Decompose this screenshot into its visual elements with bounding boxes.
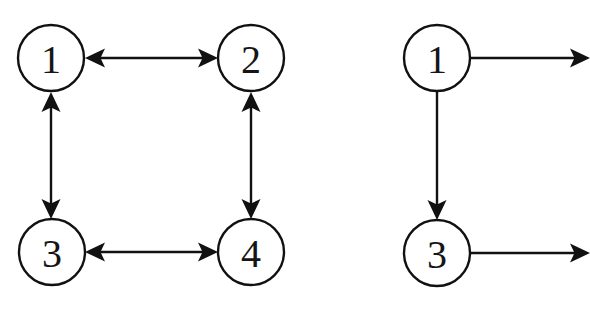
edge-R1-out [471,49,590,68]
edge-R3-out [471,244,590,263]
graph-node-3[interactable]: 3 [404,220,470,286]
edge-L2-L4 [242,92,261,219]
graph-node-4[interactable]: 4 [218,219,284,285]
edge-L3-L4 [85,243,218,262]
graph-node-1[interactable]: 1 [18,25,84,91]
nodes-layer: 123413 [18,25,470,286]
node-label: 3 [427,232,447,277]
diagram-canvas: 123413 [0,0,590,313]
node-label: 4 [241,231,261,276]
node-label: 3 [42,231,62,276]
node-label: 1 [41,37,61,82]
edge-R1-R3 [428,92,447,220]
graph-node-1[interactable]: 1 [404,25,470,91]
graph-node-3[interactable]: 3 [19,219,85,285]
node-label: 1 [427,37,447,82]
edges-layer [42,49,590,263]
graph-diagram: 123413 [0,0,590,313]
graph-node-2[interactable]: 2 [218,25,284,91]
edge-L1-L2 [85,49,218,68]
edge-L1-L3 [42,92,61,219]
node-label: 2 [241,37,261,82]
